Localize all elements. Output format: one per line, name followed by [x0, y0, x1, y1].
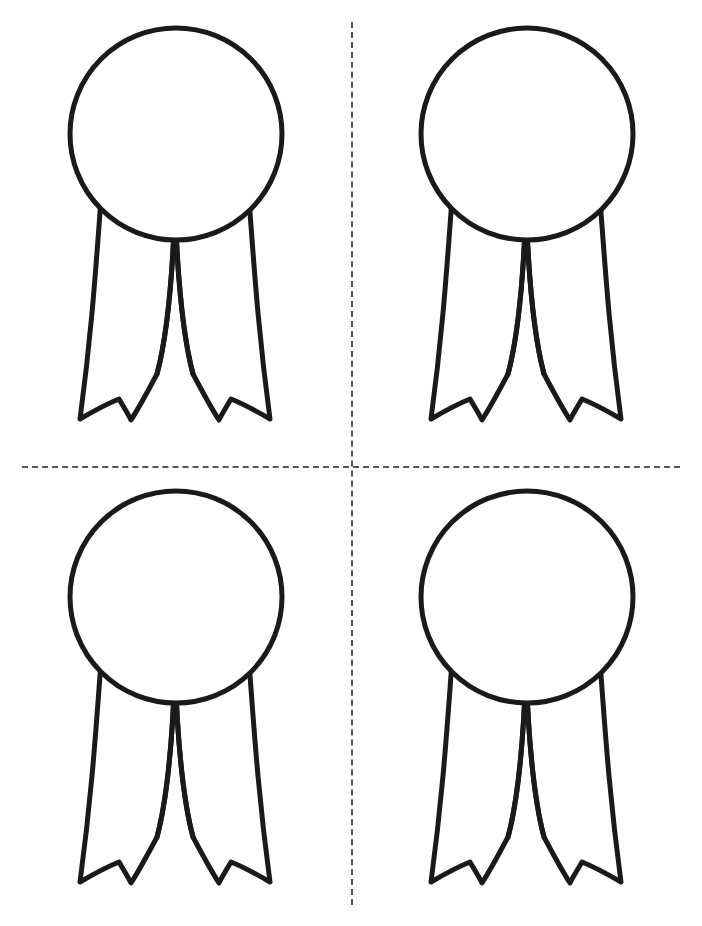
- vertical-cut-line: [351, 22, 353, 905]
- ribbon-outline-graphic: [0, 463, 351, 926]
- ribbon-outline-graphic: [0, 0, 351, 463]
- ribbon-top-right[interactable]: [351, 0, 702, 463]
- template-page: Award Ribbon Cut-Out Template: [0, 0, 702, 926]
- ribbon-outline-graphic: [351, 0, 702, 463]
- ribbon-medallion-circle: [421, 28, 633, 240]
- ribbon-top-left[interactable]: [0, 0, 351, 463]
- ribbon-outline-graphic: [351, 463, 702, 926]
- ribbon-medallion-circle: [70, 28, 282, 240]
- ribbon-medallion-circle: [70, 491, 282, 703]
- ribbon-medallion-circle: [421, 491, 633, 703]
- ribbon-bottom-left[interactable]: [0, 463, 351, 926]
- ribbon-bottom-right[interactable]: [351, 463, 702, 926]
